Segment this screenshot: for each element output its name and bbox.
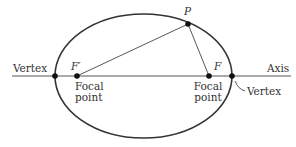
- focus-f-label: F: [214, 61, 221, 72]
- focus-fprime-point: [74, 73, 80, 79]
- axis-label: Axis: [267, 63, 289, 74]
- focal-point-right-label: Focal point: [190, 81, 226, 103]
- vertex-left-label: Vertex: [13, 63, 47, 74]
- focus-fprime-label: F′: [71, 61, 81, 72]
- focal-left-line2: point: [75, 92, 105, 103]
- point-p-label: P: [184, 6, 191, 17]
- vertex-leader-line: [235, 81, 245, 91]
- focal-right-line2: point: [190, 92, 226, 103]
- focus-f-point: [206, 73, 212, 79]
- right-vertex-point: [229, 73, 235, 79]
- left-vertex-point: [52, 73, 58, 79]
- vertex-right-label: Vertex: [247, 86, 281, 97]
- focal-point-left-label: Focal point: [75, 81, 105, 103]
- segment-fprime-p: [77, 24, 188, 76]
- point-p: [185, 21, 191, 27]
